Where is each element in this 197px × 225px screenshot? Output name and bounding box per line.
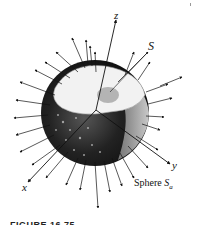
- sphere-illustration: [0, 0, 197, 225]
- sphere-sa-label: Sphere Sa: [134, 178, 173, 191]
- page-mark: [190, 3, 191, 6]
- sphere-label-prefix: Sphere: [134, 177, 164, 188]
- sphere-label-subscript: a: [169, 183, 173, 191]
- z-axis-label: z: [114, 10, 118, 21]
- surface-s-label: S: [148, 40, 154, 52]
- x-axis-label: x: [22, 182, 27, 193]
- figure-caption: FIGURE 16.75: [10, 219, 75, 225]
- sphere-flux-figure: z S y x Sphere Sa FIGURE 16.75: [0, 0, 197, 225]
- y-axis-label: y: [172, 160, 177, 171]
- sphere-body: [41, 60, 149, 166]
